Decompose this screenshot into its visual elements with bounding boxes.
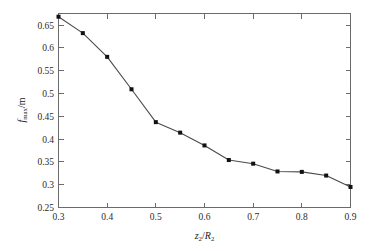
data-point [300,170,304,174]
data-point [324,174,328,178]
x-axis-title-den-sub: 2 [211,235,215,242]
x-axis-title-den: R [204,230,211,241]
y-ticklabel: 0.25 [37,203,54,213]
y-axis-ticklabels: 0.25 0.3 0.35 0.4 0.45 0.5 0.55 0.6 0.65 [37,21,54,213]
data-point [276,169,280,173]
data-series-markers [57,15,353,189]
data-point [349,185,353,189]
y-ticklabel: 0.35 [37,157,54,167]
data-point [57,15,61,19]
x-axis-major-ticks [59,14,351,208]
x-axis-title: z2/R2 [194,230,215,242]
data-point [227,158,231,162]
data-point [203,143,207,147]
y-axis-title-sub: max [21,107,28,119]
y-axis-title: fmax/m [16,97,28,122]
data-point [251,162,255,166]
x-ticklabel: 0.5 [150,212,162,222]
chart-figure: 0.3 0.4 0.5 0.6 0.7 0.8 0.9 0.25 0.3 0.3… [0,0,372,251]
y-ticklabel: 0.5 [42,89,54,99]
y-ticklabel: 0.45 [37,112,54,122]
x-ticklabel: 0.3 [53,212,65,222]
x-ticklabel: 0.7 [247,212,259,222]
y-ticklabel: 0.65 [37,21,54,31]
svg-text:z2/R2: z2/R2 [194,230,215,242]
data-point [130,87,134,91]
plot-frame [59,14,351,208]
x-ticklabel: 0.4 [101,212,113,222]
data-point [178,131,182,135]
y-ticklabel: 0.4 [42,135,54,145]
data-point [154,120,158,124]
x-ticklabel: 0.8 [296,212,308,222]
line-chart-svg: 0.3 0.4 0.5 0.6 0.7 0.8 0.9 0.25 0.3 0.3… [0,0,372,251]
y-axis-title-unit: /m [16,97,27,108]
x-ticklabel: 0.9 [345,212,357,222]
data-point [105,55,109,59]
x-axis-ticklabels: 0.3 0.4 0.5 0.6 0.7 0.8 0.9 [53,212,357,222]
y-ticklabel: 0.55 [37,66,54,76]
data-point [81,31,85,35]
svg-text:fmax/m: fmax/m [16,97,28,122]
data-series-line [59,17,351,187]
y-ticklabel: 0.6 [42,43,54,53]
x-ticklabel: 0.6 [199,212,211,222]
y-ticklabel: 0.3 [42,180,54,190]
